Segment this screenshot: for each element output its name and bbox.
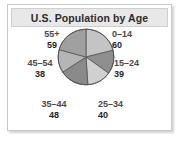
- pie-label-35-44-category: 35–44: [28, 99, 80, 110]
- pie-label-25-34-category: 25–34: [98, 99, 150, 110]
- pie-label-35-44: 35–44 48: [28, 99, 80, 121]
- pie-label-0-14-category: 0–14: [112, 29, 164, 40]
- pie-label-45-54-value: 38: [14, 69, 66, 80]
- pie-label-15-24-category: 15–24: [114, 58, 166, 69]
- pie-label-45-54-category: 45–54: [14, 58, 66, 69]
- pie-label-55-plus-category: 55+: [26, 29, 78, 40]
- pie-label-15-24: 15–24 39: [114, 58, 166, 80]
- pie-label-0-14: 0–14 60: [112, 29, 164, 51]
- page-title: U.S. Population by Age: [31, 12, 148, 24]
- pie-label-25-34-value: 40: [98, 110, 150, 121]
- pie-label-15-24-value: 39: [114, 69, 166, 80]
- chart-title-band: U.S. Population by Age: [11, 8, 168, 27]
- pie-label-0-14-value: 60: [112, 40, 164, 51]
- pie-label-55-plus-value: 59: [26, 40, 78, 51]
- pie-label-35-44-value: 48: [28, 110, 80, 121]
- pie-label-55-plus: 55+ 59: [26, 29, 78, 51]
- chart-figure: U.S. Population by Age 0–14 60 15–24 39 …: [7, 4, 172, 131]
- pie-label-25-34: 25–34 40: [98, 99, 150, 121]
- pie-chart-plot-area: 0–14 60 15–24 39 25–34 40 35–44 48 45–54…: [8, 27, 171, 130]
- pie-label-45-54: 45–54 38: [14, 58, 66, 80]
